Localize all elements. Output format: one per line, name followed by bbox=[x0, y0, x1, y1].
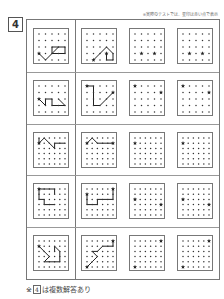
grid-dot bbox=[150, 204, 152, 206]
grid-dot bbox=[112, 193, 114, 195]
grid-dot bbox=[54, 188, 56, 190]
grid-dot bbox=[97, 199, 99, 201]
grid-dot bbox=[64, 256, 66, 258]
grid-dot bbox=[203, 193, 205, 195]
grid-dot bbox=[97, 153, 99, 155]
grid-dot bbox=[86, 59, 88, 61]
grid-dot bbox=[102, 163, 104, 165]
grid-dot bbox=[38, 209, 40, 211]
grid-dot bbox=[141, 92, 143, 94]
grid-dot bbox=[86, 33, 88, 35]
grid-dot bbox=[208, 111, 210, 113]
grid-dot bbox=[59, 251, 61, 253]
grid-dot bbox=[107, 142, 109, 144]
answer-dot-grid[interactable] bbox=[177, 183, 213, 219]
grid-dot bbox=[97, 142, 99, 144]
grid-dot bbox=[187, 240, 189, 242]
grid-dot bbox=[51, 105, 53, 107]
grid-dot bbox=[86, 214, 88, 216]
grid-dot bbox=[38, 59, 40, 61]
grid-dot bbox=[43, 199, 45, 201]
grid-dot bbox=[59, 240, 61, 242]
grid-dot bbox=[99, 59, 101, 61]
grid-dot bbox=[139, 256, 141, 258]
example-dot-grid bbox=[81, 235, 117, 271]
grid-dot bbox=[198, 148, 200, 150]
grid-dot bbox=[134, 204, 136, 206]
grid-dot bbox=[106, 40, 108, 42]
pattern-line bbox=[44, 251, 49, 256]
grid-dot bbox=[49, 199, 51, 201]
grid-dot bbox=[86, 105, 88, 107]
grid-dot bbox=[139, 261, 141, 263]
grid-dot bbox=[58, 92, 60, 94]
grid-dot bbox=[38, 256, 40, 258]
grid-dot bbox=[182, 204, 184, 206]
grid-dot bbox=[208, 214, 210, 216]
grid-dot bbox=[134, 240, 136, 242]
grid-dot bbox=[38, 40, 40, 42]
grid-dot bbox=[150, 199, 152, 201]
answer-dot-grid[interactable] bbox=[177, 235, 213, 271]
grid-dot bbox=[49, 137, 51, 139]
grid-dot bbox=[145, 137, 147, 139]
grid-dot bbox=[182, 193, 184, 195]
grid-dot bbox=[97, 188, 99, 190]
grid-dot bbox=[198, 193, 200, 195]
grid-dot bbox=[86, 46, 88, 48]
grid-dot bbox=[38, 240, 40, 242]
grid-dot bbox=[208, 40, 210, 42]
grid-dot bbox=[198, 204, 200, 206]
grid-dot bbox=[112, 245, 114, 247]
grid-dot bbox=[193, 158, 195, 160]
grid-dot bbox=[155, 261, 157, 263]
grid-dot bbox=[145, 153, 147, 155]
grid-dot bbox=[43, 153, 45, 155]
grid-dot bbox=[112, 266, 114, 268]
answer-dot-grid[interactable] bbox=[129, 183, 165, 219]
grid-dot bbox=[203, 158, 205, 160]
grid-dot bbox=[187, 204, 189, 206]
grid-dot bbox=[45, 98, 47, 100]
grid-dot bbox=[97, 193, 99, 195]
star-marker-icon bbox=[181, 265, 185, 269]
grid-dot bbox=[150, 163, 152, 165]
grid-dot bbox=[102, 256, 104, 258]
grid-dot bbox=[64, 204, 66, 206]
grid-dot bbox=[49, 163, 51, 165]
answer-dot-grid[interactable] bbox=[129, 28, 165, 64]
grid-dot bbox=[139, 188, 141, 190]
answer-dot-grid[interactable] bbox=[129, 132, 165, 168]
grid-dot bbox=[160, 46, 162, 48]
grid-dot bbox=[51, 85, 53, 87]
grid-dot bbox=[147, 111, 149, 113]
grid-dot bbox=[160, 251, 162, 253]
grid-dot bbox=[203, 148, 205, 150]
grid-dot bbox=[182, 33, 184, 35]
answer-dot-grid[interactable] bbox=[129, 80, 165, 116]
answer-dot-grid[interactable] bbox=[177, 28, 213, 64]
grid-dot bbox=[147, 53, 149, 55]
grid-dot bbox=[51, 92, 53, 94]
grid-dot bbox=[139, 199, 141, 201]
grid-dot bbox=[107, 256, 109, 258]
grid-dot bbox=[155, 148, 157, 150]
grid-dot bbox=[86, 153, 88, 155]
star-marker-icon bbox=[159, 239, 163, 243]
grid-dot bbox=[43, 251, 45, 253]
grid-dot bbox=[59, 261, 61, 263]
grid-dot bbox=[208, 209, 210, 211]
grid-dot bbox=[112, 204, 114, 206]
answer-dot-grid[interactable] bbox=[177, 80, 213, 116]
answer-dot-grid[interactable] bbox=[129, 235, 165, 271]
answer-dot-grid[interactable] bbox=[177, 132, 213, 168]
grid-dot bbox=[99, 85, 101, 87]
grid-dot bbox=[86, 245, 88, 247]
grid-dot bbox=[93, 111, 95, 113]
grid-dot bbox=[54, 163, 56, 165]
grid-dot bbox=[112, 251, 114, 253]
grid-dot bbox=[51, 53, 53, 55]
grid-dot bbox=[64, 245, 66, 247]
grid-dot bbox=[106, 111, 108, 113]
grid-dot bbox=[86, 40, 88, 42]
